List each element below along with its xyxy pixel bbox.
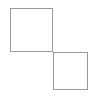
two-squares-figure bbox=[0, 0, 96, 98]
diagram-canvas bbox=[0, 0, 96, 98]
bottom-right-square bbox=[54, 53, 88, 90]
top-left-square bbox=[11, 9, 53, 52]
